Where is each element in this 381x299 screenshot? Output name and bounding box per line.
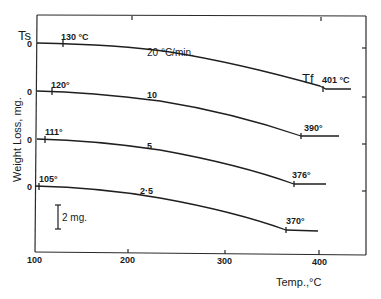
x-tick-100: 100 [27,255,42,265]
start-label-10: 120° [51,80,70,90]
x-tick-200: 200 [120,255,135,265]
start-label-5: 111° [45,127,63,137]
x-tick-300: 300 [217,256,232,266]
end-label-10: 390° [304,123,323,133]
curve-2-5-c-per-min [35,183,318,233]
tf-symbol: Tf [302,71,314,86]
rate-label-5: 5 [147,141,152,151]
end-label-5: 376° [292,170,311,180]
end-label-2-5: 370° [286,216,305,226]
x-axis-title: Temp.,°C [276,276,321,288]
y-zero-label-2-5: 0 [27,182,32,192]
rate-label-10: 10 [147,90,157,100]
start-label-2-5: 105° [39,174,58,184]
y-zero-label-10: 0 [27,87,32,97]
scale-bar-label: 2 mg. [62,212,87,223]
rate-label-2-5: 2·5 [140,186,153,196]
tf-temp-label: 401 °C [322,75,350,85]
tga-chart: 100 200 300 400 Temp.,°C Weight Loss, mg… [0,0,381,299]
rate-label-20: 20 °C/min. [147,47,194,58]
x-tick-400: 400 [312,257,327,267]
y-zero-label-5: 0 [27,135,32,145]
top-axis-ticks [132,16,321,21]
y-axis-title: Weight Loss, mg. [11,97,23,182]
ts-temp-label: 130 °C [61,32,89,42]
ts-symbol: Ts [18,28,32,43]
curve-5-c-per-min [37,136,326,187]
scale-bar [55,205,61,229]
curve-10-c-per-min [37,88,339,139]
